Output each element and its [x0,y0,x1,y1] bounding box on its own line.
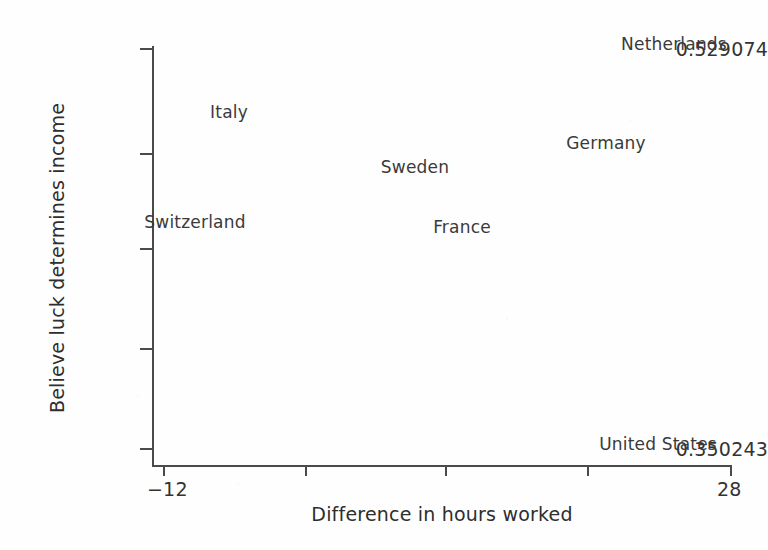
data-point-france: France [433,217,491,237]
x-axis-tick-3 [445,465,447,476]
y-axis-title: Believe luck determines income [46,68,68,448]
x-axis-tick-5 [730,465,732,476]
x-axis-left-tick-label: −12 [147,478,188,500]
y-axis-tick-3 [140,248,152,250]
x-axis-tick-2 [305,465,307,476]
x-axis-tick-4 [587,465,589,476]
y-axis-tick-4 [140,348,152,350]
scatter-plot-figure: 0.529074 0.350243 −12 28 Difference in h… [0,0,768,550]
x-axis-title: Difference in hours worked [152,503,732,525]
y-axis-tick-5 [140,448,152,450]
y-axis-line [152,46,154,467]
x-axis-line [152,465,732,467]
data-point-switzerland: Switzerland [144,212,245,232]
data-point-sweden: Sweden [381,157,449,177]
data-point-germany: Germany [566,133,646,153]
data-point-netherlands: Netherlands [621,34,727,54]
y-axis-tick-1 [140,48,152,50]
x-axis-tick-1 [163,465,165,476]
data-point-italy: Italy [210,102,248,122]
y-axis-tick-2 [140,153,152,155]
scan-texture-overlay [0,0,768,550]
data-point-united-states: United States [599,434,717,454]
x-axis-right-tick-label: 28 [717,478,742,500]
